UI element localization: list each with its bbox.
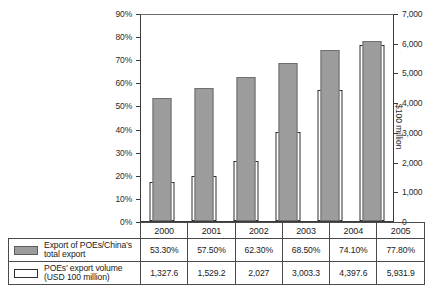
left-axis-tick-label: 70% [116, 55, 132, 65]
bar-slot [183, 15, 225, 221]
plot-area [140, 14, 394, 222]
right-axis-tick-mark [394, 14, 398, 15]
legend-label: Export of POEs/China’stotal export [44, 241, 132, 260]
right-axis-title: $100 million [394, 104, 404, 149]
table-data-cell: 4,397.6 [330, 262, 377, 285]
legend-cell: POEs’ export volume(USD 100 million) [9, 262, 141, 285]
table-data-cell: 3,003.3 [282, 262, 329, 285]
right-axis-tick-label: 5,000 [402, 68, 422, 78]
left-axis-tick-label: 50% [116, 101, 132, 111]
table-header-year: 2004 [330, 223, 377, 239]
right-axis-tick-mark [394, 44, 398, 45]
bar-export-share[interactable] [153, 98, 172, 221]
right-axis-tick-label: 1,000 [402, 187, 422, 197]
left-axis-tick-label: 40% [116, 125, 132, 135]
table-data-cell: 1,529.2 [188, 262, 235, 285]
bar-export-share[interactable] [279, 63, 298, 221]
table-row: Export of POEs/China’stotal export53.30%… [9, 239, 425, 262]
left-axis-tick-label: 10% [116, 194, 132, 204]
table-row-years: 200020012002200320042005 [9, 223, 425, 239]
left-axis-tick-label: 20% [116, 171, 132, 181]
bar-slot [141, 15, 183, 221]
table-data-cell: 68.50% [282, 239, 329, 262]
bar-slot [267, 15, 309, 221]
legend-cell: Export of POEs/China’stotal export [9, 239, 141, 262]
left-axis-tick-label: 60% [116, 78, 132, 88]
left-axis: 0%10%20%30%40%50%60%70%80%90% [95, 14, 140, 222]
left-axis-tick-label: 80% [116, 32, 132, 42]
table-data-cell: 1,327.6 [141, 262, 188, 285]
bar-export-share[interactable] [363, 41, 382, 221]
left-axis-tick-label: 30% [116, 148, 132, 158]
table-row: POEs’ export volume(USD 100 million)1,32… [9, 262, 425, 285]
table-header-year: 2005 [377, 223, 424, 239]
table-data-cell: 5,931.9 [377, 262, 424, 285]
bar-group [141, 15, 393, 221]
table-data-cell: 74.10% [330, 239, 377, 262]
table-header-year: 2000 [141, 223, 188, 239]
right-axis-tick-mark [394, 192, 398, 193]
left-axis-tick-label: 90% [116, 9, 132, 19]
bar-export-share[interactable] [237, 77, 256, 221]
table-header-year: 2003 [282, 223, 329, 239]
filled-gray-swatch [14, 246, 38, 255]
table-data-cell: 77.80% [377, 239, 424, 262]
bar-slot [351, 15, 393, 221]
hollow-white-swatch [14, 269, 38, 278]
data-table: 200020012002200320042005Export of POEs/C… [8, 222, 425, 285]
table-data-cell: 2,027 [235, 262, 282, 285]
table-data-cell: 53.30% [141, 239, 188, 262]
table-data-cell: 62.30% [235, 239, 282, 262]
legend-label: POEs’ export volume(USD 100 million) [44, 264, 123, 283]
chart-figure: 0%10%20%30%40%50%60%70%80%90% 01,0002,00… [0, 0, 433, 300]
bar-slot [225, 15, 267, 221]
table-data-cell: 57.50% [188, 239, 235, 262]
table-header-year: 2002 [235, 223, 282, 239]
table-corner-cell [9, 223, 141, 239]
right-axis-tick-label: 3,000 [402, 128, 422, 138]
right-axis-tick-mark [394, 73, 398, 74]
right-axis-tick-label: 6,000 [402, 39, 422, 49]
right-axis-tick-label: 7,000 [402, 9, 422, 19]
right-axis-tick-mark [394, 163, 398, 164]
bar-export-share[interactable] [195, 88, 214, 221]
right-axis-tick-label: 2,000 [402, 158, 422, 168]
table-header-year: 2001 [188, 223, 235, 239]
right-axis-tick-label: 4,000 [402, 98, 422, 108]
bar-slot [309, 15, 351, 221]
bar-export-share[interactable] [321, 50, 340, 221]
